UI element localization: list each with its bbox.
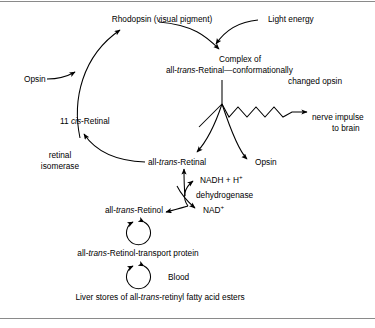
label-complex-line3: changed opsin xyxy=(288,76,342,87)
label-dehydrogenase: dehydrogenase xyxy=(196,190,253,201)
retinol-prefix: all- xyxy=(105,205,116,215)
nadh-charge: + xyxy=(239,173,243,180)
transport-prefix: all- xyxy=(77,248,88,258)
label-opsin-right: Opsin xyxy=(255,157,277,168)
branch-to-all-trans-retinal xyxy=(197,104,222,152)
transport-trans: trans xyxy=(88,248,106,258)
nad-text: NAD xyxy=(203,205,221,215)
liver-prefix: Liver stores of all- xyxy=(75,292,140,302)
nerve-impulse-zigzag-arrow xyxy=(222,104,307,117)
label-all-trans-retinal: all-trans-Retinal xyxy=(148,157,206,168)
light-energy-arrow xyxy=(216,20,258,44)
liver-suffix: -retinyl fatty acid esters xyxy=(159,292,244,302)
cis-prefix: 11 xyxy=(60,116,71,126)
label-light-energy: Light energy xyxy=(268,14,314,25)
dehydrogenase-nadh-arrow xyxy=(185,181,193,206)
complex-prefix: all- xyxy=(166,65,177,75)
label-rhodopsin: Rhodopsin (visual pigment) xyxy=(112,14,213,25)
label-liver-stores: Liver stores of all-trans-retinyl fatty … xyxy=(75,292,244,303)
label-retinal-isomerase-line2: isomerase xyxy=(41,161,79,172)
transport-suffix: -Retinol-transport protein xyxy=(107,248,199,258)
label-nerve-impulse-line1: nerve impulse xyxy=(312,112,364,123)
nad-charge: + xyxy=(221,203,225,210)
retinal-trans: trans xyxy=(159,157,177,167)
opsin-input-arrow xyxy=(47,72,75,79)
retinol-transport-circular-arrow xyxy=(127,222,151,245)
nadh-text: NADH + H xyxy=(200,175,239,185)
label-blood: Blood xyxy=(168,272,189,283)
label-complex-line2: all-trans-Retinal—conformationally xyxy=(166,65,293,76)
branch-to-opsin-right xyxy=(222,104,247,159)
liver-trans: trans xyxy=(141,292,159,302)
label-opsin-left: Opsin xyxy=(24,74,46,85)
label-all-trans-retinol: all-trans-Retinol xyxy=(105,205,163,216)
label-complex-line1: Complex of xyxy=(219,54,261,65)
retinal-isomerase-arc xyxy=(84,134,145,162)
cis-italic: cis xyxy=(71,116,81,126)
label-retinal-isomerase-line1: retinal xyxy=(49,150,72,161)
retinal-suffix: -Retinal xyxy=(178,157,207,167)
cis-suffix: -Retinal xyxy=(81,116,110,126)
dehydrogenase-nad-arrow xyxy=(177,186,195,208)
label-nerve-impulse-line2: to brain xyxy=(332,123,360,134)
dehydrogenase-to-retinol-arrow xyxy=(166,206,188,212)
complex-trans: trans xyxy=(177,65,195,75)
label-retinol-transport-protein: all-trans-Retinol-transport protein xyxy=(77,248,198,259)
cycle-arc-rhodopsin-to-complex xyxy=(159,22,219,49)
bottom-divider-rule xyxy=(0,318,375,319)
retinol-trans: trans xyxy=(116,205,134,215)
blood-circular-arrow xyxy=(127,266,151,289)
label-11-cis-retinal: 11 cis-Retinal xyxy=(60,116,110,127)
retinol-to-retinal-arrow xyxy=(184,169,185,196)
branch-node-stub xyxy=(199,104,222,127)
top-divider-rule xyxy=(0,1,375,2)
rhodopsin-cycle-diagram: Rhodopsin (visual pigment) Light energy … xyxy=(0,0,375,328)
retinol-suffix: -Retinol xyxy=(134,205,163,215)
complex-suffix: -Retinal—conformationally xyxy=(196,65,293,75)
label-nadh: NADH + H+ xyxy=(200,175,243,186)
retinal-prefix: all- xyxy=(148,157,159,167)
label-nad-plus: NAD+ xyxy=(203,205,224,216)
